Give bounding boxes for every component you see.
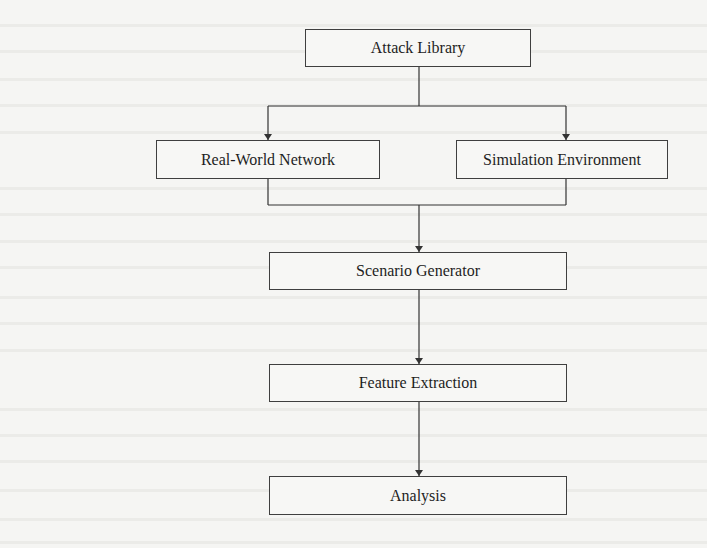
node-simulation-environment: Simulation Environment bbox=[456, 140, 668, 179]
diagram-canvas: Attack Library Real-World Network Simula… bbox=[0, 0, 707, 548]
node-label: Simulation Environment bbox=[483, 151, 641, 169]
node-label: Analysis bbox=[390, 487, 446, 505]
node-attack-library: Attack Library bbox=[305, 29, 531, 67]
node-real-world-network: Real-World Network bbox=[156, 140, 380, 179]
node-label: Scenario Generator bbox=[356, 262, 480, 280]
node-feature-extraction: Feature Extraction bbox=[269, 364, 567, 402]
node-analysis: Analysis bbox=[269, 476, 567, 515]
node-label: Feature Extraction bbox=[359, 374, 478, 392]
node-label: Real-World Network bbox=[201, 151, 335, 169]
node-label: Attack Library bbox=[371, 39, 466, 57]
node-scenario-generator: Scenario Generator bbox=[269, 252, 567, 290]
